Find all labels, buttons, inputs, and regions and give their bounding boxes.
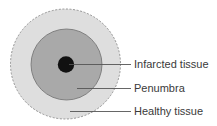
label-healthy-tissue: Healthy tissue: [134, 105, 203, 117]
label-infarcted-tissue: Infarcted tissue: [134, 58, 209, 70]
label-penumbra: Penumbra: [134, 82, 185, 94]
